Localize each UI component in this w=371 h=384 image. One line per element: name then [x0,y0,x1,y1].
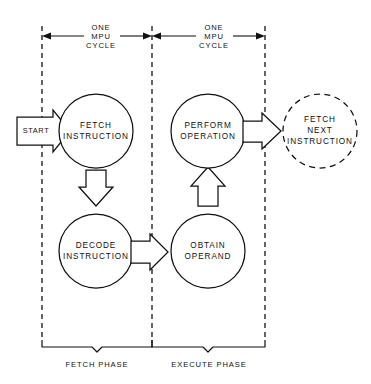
fetch-instruction-circle [59,94,133,168]
execute-phase-label: EXECUTE PHASE [171,360,246,369]
mpu-instruction-cycle-diagram: ONE MPU CYCLE ONE MPU CYCLE START FETCH … [0,0,371,384]
measure-arrowhead-right-2 [256,32,265,39]
arrow-perform-to-fetch-next [243,113,281,149]
arrow-fetch-to-decode [79,170,113,206]
arrow-obtain-to-perform [191,167,225,206]
perform-operation-circle [171,94,245,168]
arrow-perform-to-fetch-next-shape [243,113,281,149]
cycle-right-line1: ONE [204,23,223,32]
obtain-operand-line1: OBTAIN [190,241,225,250]
arrow-decode-to-obtain-shape [131,234,168,270]
bracket-fetch-phase: FETCH PHASE [42,340,152,369]
bracket-execute-phase: EXECUTE PHASE [152,340,265,369]
arrow-decode-to-obtain [131,234,168,270]
node-fetch-next-instruction: FETCH NEXT INSTRUCTION [283,94,357,168]
cycle-left-line2: MPU [91,32,111,41]
measure-arrowhead-left-2 [152,32,161,39]
arrow-fetch-to-decode-shape [79,170,113,206]
fetch-instruction-line1: FETCH [80,121,112,130]
fetch-instruction-line2: INSTRUCTION [63,132,129,141]
measure-arrowhead-right [143,32,152,39]
fetch-next-instruction-line1: FETCH [304,115,336,124]
cycle-measure-left: ONE MPU CYCLE [42,23,152,50]
cycle-right-line2: MPU [204,32,224,41]
start-label: START [23,126,50,135]
node-decode-instruction: DECODE INSTRUCTION [59,214,133,288]
arrow-obtain-to-perform-shape [191,167,225,206]
cycle-left-line3: CYCLE [86,41,116,50]
cycle-right-line3: CYCLE [199,41,229,50]
cycle-measure-right: ONE MPU CYCLE [152,23,265,50]
diagram-canvas: ONE MPU CYCLE ONE MPU CYCLE START FETCH … [0,0,371,384]
node-perform-operation: PERFORM OPERATION [171,94,245,168]
cycle-left-line1: ONE [91,23,110,32]
fetch-next-instruction-line2: NEXT [307,126,332,135]
measure-arrowhead-left [42,32,51,39]
node-fetch-instruction: FETCH INSTRUCTION [59,94,133,168]
perform-operation-line1: PERFORM [184,121,231,130]
obtain-operand-line2: OPERAND [185,252,232,261]
node-obtain-operand: OBTAIN OPERAND [171,214,245,288]
fetch-phase-label: FETCH PHASE [65,360,128,369]
decode-instruction-line1: DECODE [76,241,116,250]
decode-instruction-circle [59,214,133,288]
obtain-operand-circle [171,214,245,288]
perform-operation-line2: OPERATION [180,132,236,141]
fetch-next-instruction-line3: INSTRUCTION [287,137,353,146]
decode-instruction-line2: INSTRUCTION [63,252,129,261]
